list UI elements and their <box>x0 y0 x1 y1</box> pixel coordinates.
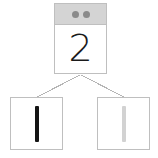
parent-card-header <box>55 4 106 25</box>
tally-mark-icon <box>35 106 39 142</box>
header-dot-icon <box>83 11 90 18</box>
parent-value-label: 2 <box>68 29 92 67</box>
header-dot-icon <box>72 11 79 18</box>
diagram-canvas: 2 <box>0 0 158 158</box>
tally-mark-icon <box>122 106 126 142</box>
child-card-right[interactable] <box>97 97 150 150</box>
parent-card[interactable]: 2 <box>54 3 107 74</box>
child-card-left[interactable] <box>10 97 63 150</box>
child-card-left-body <box>11 98 62 149</box>
connector-line-right <box>81 75 124 97</box>
child-card-right-body <box>98 98 149 149</box>
parent-card-body: 2 <box>55 25 106 73</box>
connector-line-left <box>37 75 80 97</box>
